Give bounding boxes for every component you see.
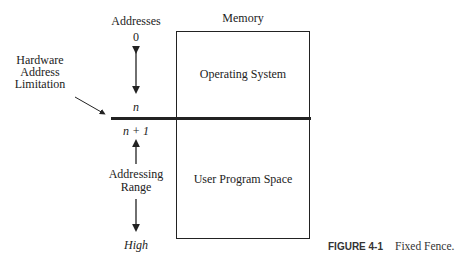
- addressing-range-line: Range: [106, 181, 166, 194]
- hardware-pointer-arrow-icon: [75, 97, 103, 113]
- address-n: n: [126, 100, 146, 114]
- memory-label: Memory: [213, 11, 273, 25]
- address-zero: 0: [126, 30, 146, 44]
- hardware-address-limitation-label: Hardware Address Limitation: [10, 54, 70, 90]
- memory-box: [176, 31, 310, 239]
- addresses-label: Addresses: [106, 14, 166, 28]
- fence-line: [111, 117, 311, 120]
- user-region-label: User Program Space: [176, 172, 310, 186]
- figure-number: FIGURE 4-1: [328, 241, 383, 252]
- hardware-label-line: Limitation: [10, 78, 70, 90]
- figure-caption: FIGURE 4-1 Fixed Fence.: [328, 236, 454, 254]
- addressing-range-label: Addressing Range: [106, 168, 166, 194]
- figure-title: Fixed Fence.: [395, 240, 454, 252]
- address-high: High: [111, 238, 161, 252]
- os-region-label: Operating System: [176, 67, 310, 81]
- address-n-plus-1: n + 1: [111, 124, 161, 138]
